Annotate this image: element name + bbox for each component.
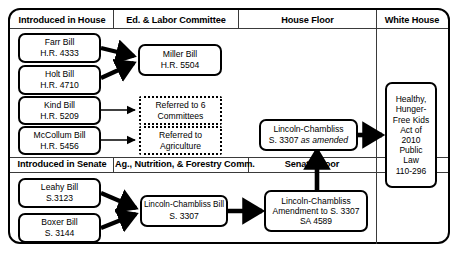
node-referredag-line2: Agriculture [160, 141, 201, 152]
house-header-divider [10, 28, 448, 29]
node-referred6-line1: Referred to 6 [155, 100, 205, 111]
node-kind-bill-line1: Kind Bill [44, 100, 75, 111]
node-lc-bill-line2: S. 3307 [169, 211, 199, 222]
node-farr-bill-line1: Farr Bill [45, 37, 75, 48]
node-public-law-line2: Hunger- [396, 104, 427, 114]
node-public-law-line3: Free Kids [393, 115, 429, 125]
node-kind-bill[interactable]: Kind Bill H.R. 5209 [18, 96, 101, 125]
node-referred-to-agriculture[interactable]: Referred to Agriculture [139, 126, 222, 155]
node-public-law-line7: Law [403, 155, 419, 165]
node-referred-to-6-committees[interactable]: Referred to 6 Committees [139, 96, 222, 125]
node-miller-bill[interactable]: Miller Bill H.R. 5504 [138, 44, 222, 76]
header-ed-labor-committee: Ed. & Labor Committee [115, 15, 237, 25]
header-introduced-in-house: Introduced in House [12, 15, 112, 25]
header-white-house: White House [378, 15, 446, 25]
node-lc-amendment-line1: Lincoln-Chambliss [281, 196, 350, 206]
node-referredag-line1: Referred to [159, 130, 202, 141]
node-holt-bill[interactable]: Holt Bill H.R. 4710 [18, 65, 101, 95]
node-farr-bill[interactable]: Farr Bill H.R. 4333 [18, 33, 101, 63]
node-leahy-bill-line1: Leahy Bill [41, 182, 78, 193]
node-lincoln-chambliss-amendment[interactable]: Lincoln-Chambliss Amendment to S. 3307 S… [264, 190, 368, 232]
node-lc-amended-line2-italic: as amended [301, 135, 348, 145]
node-lc-amended-line2-pre: S. 3307 [269, 135, 301, 145]
node-lc-amendment-line2: Amendment to S. 3307 [273, 206, 360, 216]
node-lc-amended-line2: S. 3307 as amended [269, 135, 348, 146]
node-referred6-line2: Committees [158, 111, 204, 122]
node-miller-bill-line1: Miller Bill [163, 49, 197, 60]
header-introduced-in-senate: Introduced in Senate [12, 159, 112, 169]
node-mccollum-bill-line2: H.R. 5456 [40, 141, 79, 152]
node-boxer-bill-line2: S. 3144 [45, 228, 75, 239]
node-holt-bill-line2: H.R. 4710 [40, 80, 79, 91]
header-ag-nutrition-forestry-committee: Ag., Nutrition, & Forestry Comm. [115, 159, 247, 169]
node-public-law-line4: Act of [400, 125, 422, 135]
node-holt-bill-line1: Holt Bill [45, 69, 74, 80]
col-divider-white-house [376, 10, 377, 244]
node-boxer-bill-line1: Boxer Bill [41, 217, 77, 228]
node-lc-bill-line1: Lincoln-Chambliss Bill [144, 200, 224, 211]
node-public-law-110-296[interactable]: Healthy, Hunger- Free Kids Act of 2010 P… [385, 82, 437, 188]
node-public-law-line6: Public [399, 145, 422, 155]
node-mccollum-bill-line1: McCollum Bill [33, 130, 85, 141]
node-public-law-line8: 110-296 [396, 166, 427, 176]
senate-header-bottom-divider [10, 172, 448, 173]
node-lincoln-chambliss-as-amended[interactable]: Lincoln-Chambliss S. 3307 as amended [259, 119, 358, 151]
node-kind-bill-line2: H.R. 5209 [40, 111, 79, 122]
node-farr-bill-line2: H.R. 4333 [40, 48, 79, 59]
diagram-canvas: Introduced in House Ed. & Labor Committe… [0, 0, 462, 255]
node-public-law-line5: 2010 [402, 135, 421, 145]
node-lincoln-chambliss-bill[interactable]: Lincoln-Chambliss Bill S. 3307 [140, 195, 228, 227]
node-boxer-bill[interactable]: Boxer Bill S. 3144 [18, 213, 101, 243]
node-lc-amendment-line3: SA 4589 [300, 216, 332, 226]
node-leahy-bill-line2: S.3123 [46, 193, 73, 204]
header-senate-floor: Senate Floor [250, 159, 374, 169]
node-leahy-bill[interactable]: Leahy Bill S.3123 [18, 178, 101, 208]
node-miller-bill-line2: H.R. 5504 [161, 60, 200, 71]
node-mccollum-bill[interactable]: McCollum Bill H.R. 5456 [18, 126, 101, 155]
node-lc-amended-line1: Lincoln-Chambliss [273, 124, 343, 135]
header-house-floor: House Floor [240, 15, 375, 25]
node-public-law-line1: Healthy, [396, 94, 427, 104]
